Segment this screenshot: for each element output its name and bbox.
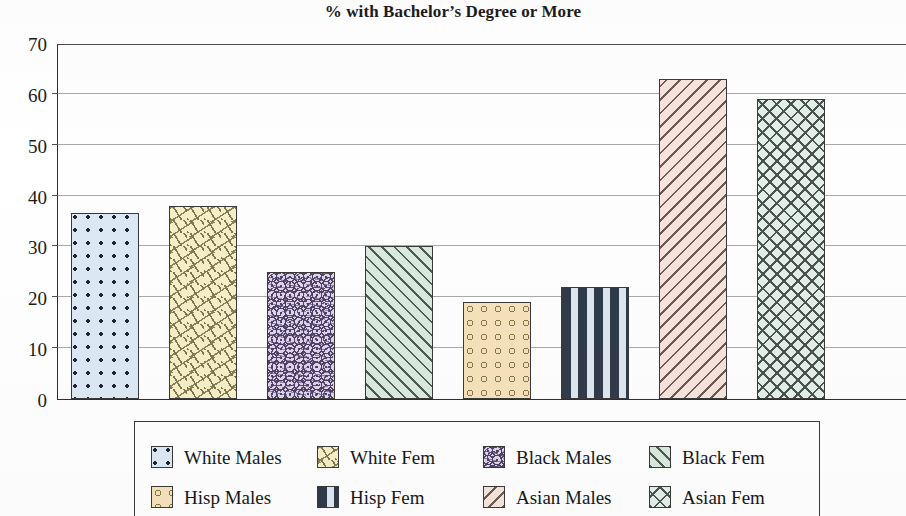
legend-swatch-icon (317, 446, 339, 468)
legend-swatch-icon (483, 446, 505, 468)
y-axis-tick (52, 93, 58, 94)
legend-label: White Fem (350, 448, 435, 467)
legend-swatch-icon (151, 446, 173, 468)
y-axis-tick-label: 50 (7, 136, 47, 155)
legend-label: Asian Males (516, 488, 612, 507)
chart-figure: % with Bachelor’s Degree or More 0102030… (0, 0, 906, 516)
legend-item-asian-fem[interactable]: Asian Fem (649, 484, 765, 510)
chart-legend: White MalesWhite FemBlack MalesBlack Fem… (134, 421, 820, 516)
chart-title: % with Bachelor’s Degree or More (0, 2, 906, 22)
legend-item-hisp-fem[interactable]: Hisp Fem (317, 484, 424, 510)
legend-swatch-icon (649, 486, 671, 508)
bar-fill-pattern (660, 80, 726, 398)
y-axis-tick-label: 60 (7, 85, 47, 104)
y-axis-tick (52, 195, 58, 196)
bar (71, 213, 139, 399)
bar-fill-pattern (170, 207, 236, 398)
legend-label: White Males (184, 448, 282, 467)
legend-label: Hisp Fem (350, 488, 424, 507)
legend-item-black-males[interactable]: Black Males (483, 444, 612, 470)
bar-fill-pattern (268, 273, 334, 398)
y-axis-tick (52, 296, 58, 297)
bar-fill-pattern (464, 303, 530, 398)
bar (169, 206, 237, 399)
bar-fill-pattern (562, 288, 628, 398)
legend-item-white-fem[interactable]: White Fem (317, 444, 435, 470)
bar (659, 79, 727, 399)
legend-label: Asian Fem (682, 488, 765, 507)
legend-label: Black Fem (682, 448, 765, 467)
y-axis-tick-labels: 010203040506070 (0, 0, 57, 516)
legend-item-white-males[interactable]: White Males (151, 444, 282, 470)
legend-item-asian-males[interactable]: Asian Males (483, 484, 612, 510)
legend-swatch-icon (649, 446, 671, 468)
bar (267, 272, 335, 399)
legend-swatch-icon (151, 486, 173, 508)
bar (463, 302, 531, 399)
y-axis-tick-label: 70 (7, 35, 47, 54)
bar-fill-pattern (72, 214, 138, 398)
legend-item-black-fem[interactable]: Black Fem (649, 444, 765, 470)
y-axis-tick-label: 20 (7, 289, 47, 308)
y-axis-tick (52, 347, 58, 348)
bar (561, 287, 629, 399)
y-axis-tick (52, 144, 58, 145)
y-axis-tick-label: 40 (7, 187, 47, 206)
plot-area (57, 44, 906, 400)
bar (757, 99, 825, 399)
legend-item-hisp-males[interactable]: Hisp Males (151, 484, 271, 510)
legend-swatch-icon (483, 486, 505, 508)
bar-fill-pattern (366, 247, 432, 398)
bar (365, 246, 433, 399)
y-axis-tick-label: 10 (7, 340, 47, 359)
y-axis-tick-label: 0 (7, 391, 47, 410)
legend-swatch-icon (317, 486, 339, 508)
gridline (58, 93, 906, 94)
legend-label: Hisp Males (184, 488, 271, 507)
y-axis-tick-label: 30 (7, 238, 47, 257)
bar-fill-pattern (758, 100, 824, 398)
legend-label: Black Males (516, 448, 612, 467)
y-axis-tick (52, 245, 58, 246)
